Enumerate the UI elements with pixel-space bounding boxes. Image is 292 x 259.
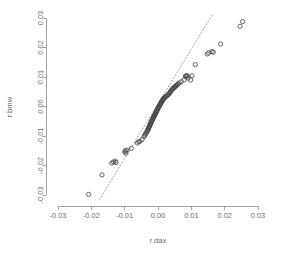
x-tick-label: 0.01 bbox=[184, 211, 198, 220]
y-tick-label: 0.02 bbox=[36, 40, 45, 54]
data-point bbox=[190, 74, 194, 78]
y-tick-label: 0.03 bbox=[36, 11, 45, 25]
plot-canvas: -0.03-0.02-0.010.000.010.020.03 -0.03-0.… bbox=[0, 0, 292, 259]
x-tick-label: 0.03 bbox=[251, 211, 265, 220]
y-tick-label: 0.01 bbox=[36, 70, 45, 84]
data-point bbox=[87, 192, 91, 196]
y-tick-label: -0.02 bbox=[36, 157, 45, 174]
x-tick-label: -0.02 bbox=[83, 211, 100, 220]
x-tick-label: 0.02 bbox=[217, 211, 231, 220]
y-tick-label: -0.01 bbox=[36, 128, 45, 145]
x-axis-title: r.dax bbox=[150, 236, 167, 245]
x-axis: -0.03-0.02-0.010.000.010.020.03 bbox=[50, 206, 266, 220]
y-axis: -0.03-0.02-0.010.000.010.020.03 bbox=[36, 11, 46, 204]
data-point bbox=[100, 173, 104, 177]
x-tick-label: -0.03 bbox=[50, 211, 67, 220]
data-point bbox=[238, 24, 242, 28]
data-point bbox=[193, 63, 197, 67]
x-tick-label: -0.01 bbox=[116, 211, 133, 220]
x-tick-label: 0.00 bbox=[151, 211, 165, 220]
y-tick-label: -0.03 bbox=[36, 187, 45, 204]
data-point bbox=[219, 42, 223, 46]
y-tick-label: 0.00 bbox=[36, 99, 45, 113]
data-point bbox=[241, 19, 245, 23]
scatter-plot-figure: -0.03-0.02-0.010.000.010.020.03 -0.03-0.… bbox=[0, 0, 292, 259]
y-axis-title: r.bmw bbox=[5, 96, 14, 117]
data-points bbox=[87, 19, 245, 196]
